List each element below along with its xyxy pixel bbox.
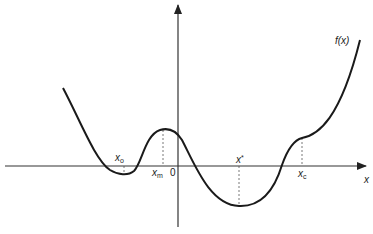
curve-label: f(x) — [335, 35, 349, 46]
function-curve — [63, 40, 360, 206]
function-diagram: f(x) xo xm 0 x* xc x — [0, 0, 373, 234]
x-star-label: x* — [235, 154, 244, 165]
x-c-label: xc — [297, 168, 307, 180]
x-m-label: xm — [151, 167, 163, 179]
x-axis-label: x — [363, 174, 370, 185]
x-o-label: xo — [114, 152, 124, 164]
origin-label: 0 — [170, 167, 176, 178]
